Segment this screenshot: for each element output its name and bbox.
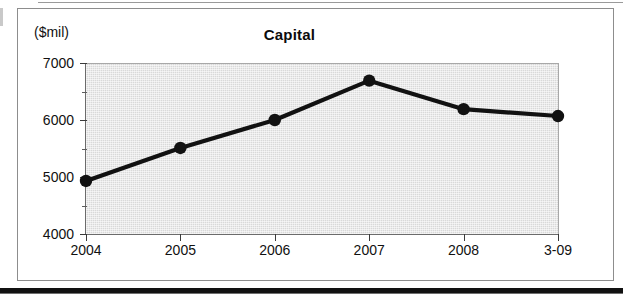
x-tick	[86, 234, 87, 241]
capital-line-series	[86, 63, 559, 234]
x-tick-label: 2004	[51, 242, 121, 258]
page-edge-left	[0, 8, 3, 26]
y-tick-minor	[82, 92, 87, 93]
data-point-marker	[363, 74, 375, 86]
data-point-marker	[269, 114, 281, 126]
y-tick-major	[80, 177, 87, 178]
y-tick-label: 6000	[28, 112, 74, 128]
data-point-marker	[174, 142, 186, 154]
x-tick	[558, 234, 559, 241]
y-tick-minor	[82, 206, 87, 207]
x-tick-label: 2007	[334, 242, 404, 258]
chart-title-text: Capital	[264, 26, 315, 43]
chart-title: Capital	[18, 26, 613, 43]
x-tick	[369, 234, 370, 241]
x-tick	[180, 234, 181, 241]
y-tick-label: 5000	[28, 169, 74, 185]
plot-edge-right	[558, 63, 559, 234]
x-tick	[464, 234, 465, 241]
series-line	[86, 81, 558, 181]
x-tick-label: 2008	[429, 242, 499, 258]
y-tick-minor	[82, 149, 87, 150]
x-tick-label: 2005	[145, 242, 215, 258]
y-tick-major	[80, 63, 87, 64]
page-rule-top	[38, 2, 623, 3]
plot-area: 4000500060007000 200420052006200720083-0…	[85, 63, 559, 235]
x-tick-label: 2006	[240, 242, 310, 258]
plot-background-texture	[86, 63, 559, 234]
plot-edge-top	[86, 63, 559, 64]
chart-figure-card: Capital ($mil) 4000500060007000 20042005…	[17, 8, 614, 281]
data-point-marker	[457, 103, 469, 115]
y-tick-label: 4000	[28, 226, 74, 242]
x-tick	[275, 234, 276, 241]
y-tick-label: 7000	[28, 55, 74, 71]
y-axis-unit-label: ($mil)	[34, 24, 69, 40]
x-tick-label: 3-09	[523, 242, 593, 258]
y-tick-major	[80, 120, 87, 121]
page-rule-bottom2	[0, 293, 623, 294]
